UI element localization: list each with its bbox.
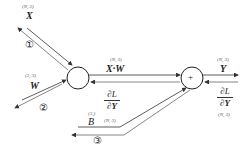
- add-symbol: +: [188, 73, 193, 82]
- out-grad-den: ∂Y: [220, 99, 230, 108]
- out-grad-num: ∂L: [220, 87, 229, 96]
- xw-grad-den: ∂Y: [107, 102, 117, 111]
- step-2: ②: [39, 103, 48, 113]
- computational-graph: [0, 0, 240, 153]
- w-label: W: [30, 81, 39, 91]
- step-3: ③: [93, 136, 102, 146]
- b-forward-arrow: [78, 88, 186, 127]
- w-forward-arrow: [22, 80, 66, 100]
- x-label: X: [26, 11, 33, 21]
- xw-shape: (N, 3): [110, 57, 122, 62]
- matmul-node: [67, 67, 89, 89]
- out-grad-shape: (N, 3): [218, 112, 230, 117]
- y-shape: (N, 3): [217, 57, 229, 62]
- w-shape: (2, 3): [25, 73, 36, 78]
- xw-gradient: ∂L ∂Y: [104, 90, 120, 111]
- step-1: ①: [25, 40, 34, 50]
- b-label: B: [88, 117, 94, 127]
- output-gradient: ∂L ∂Y: [217, 87, 233, 108]
- xw-grad-num: ∂L: [107, 90, 116, 99]
- x-shape: (N, 2): [22, 4, 34, 9]
- b-grad-shape: (N, 3): [104, 118, 116, 123]
- y-label: Y: [220, 64, 226, 74]
- xw-label: X·W: [106, 64, 124, 74]
